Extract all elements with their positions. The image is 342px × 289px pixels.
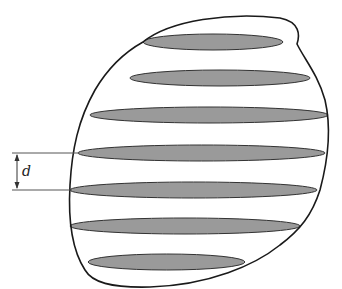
- cross-section-slice-5: [70, 182, 317, 198]
- cross-section-slice-7: [88, 254, 245, 270]
- cross-section-slice-1: [143, 34, 283, 50]
- dimension-label: d: [22, 163, 31, 179]
- cross-section-slice-2: [130, 70, 310, 86]
- slicing-diagram: d: [0, 0, 342, 289]
- dimension-marker: d: [12, 153, 78, 190]
- cross-section-slice-6: [70, 218, 300, 234]
- arrow-down-icon: [15, 182, 20, 189]
- cross-section-slice-3: [90, 107, 328, 123]
- cross-section-slice-4: [78, 145, 325, 161]
- diagram-svg: d: [0, 0, 342, 289]
- arrow-up-icon: [15, 154, 20, 161]
